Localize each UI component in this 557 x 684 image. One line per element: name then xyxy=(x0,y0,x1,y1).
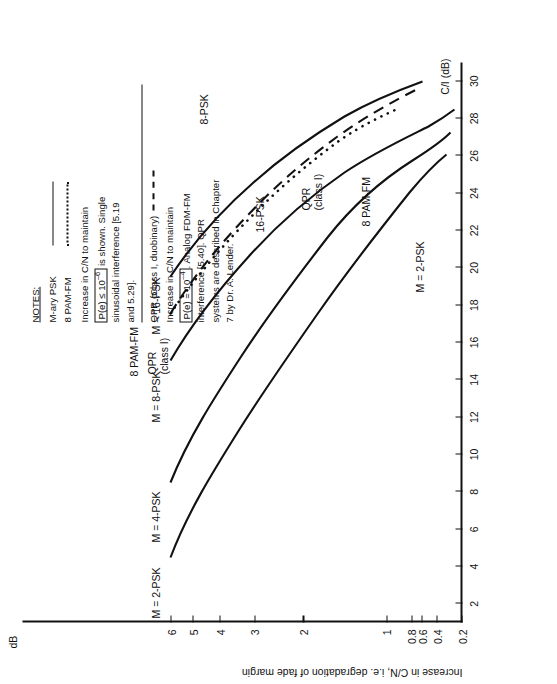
y-tick-label: 0.4 xyxy=(432,629,443,644)
y-tick-label: 6 xyxy=(166,629,177,635)
x-tick-label: 28 xyxy=(468,112,479,124)
note-2-line-2: P(e) = 10–4. Analog FDM-FM xyxy=(177,72,194,322)
note-2-boxed-text: P(e) = 10 xyxy=(180,279,191,319)
note-2-line-1: Increase in C/N to maintain xyxy=(162,72,176,322)
x-tick-label: 22 xyxy=(468,224,479,236)
y-tick-label: 0.8 xyxy=(407,629,418,644)
x-tick-label: 24 xyxy=(468,187,479,199)
x-tick-label: 16 xyxy=(468,336,479,348)
x-tick-label: 10 xyxy=(468,448,479,460)
note-2-line-2-tail: . Analog FDM-FM xyxy=(180,193,191,268)
y-tick-label: 2 xyxy=(298,629,309,635)
y-tick-label: 5 xyxy=(188,629,199,635)
figure-stage: 2 4 6 8 10 12 14 16 18 20 22 24 26 28 30… xyxy=(0,0,557,684)
x-tick-label: 4 xyxy=(468,563,479,569)
y-axis-title: Increase in C/N, i.e. degradation of fad… xyxy=(241,666,462,678)
x-tick-label: 14 xyxy=(468,373,479,385)
legend-label-mary-psk: M-ary PSK xyxy=(45,250,59,322)
note-1: Increase in C/N to maintain P(e) ≤ 10–6 … xyxy=(77,72,137,322)
x-tick-label: 18 xyxy=(468,299,479,311)
x-tick-label: 12 xyxy=(468,411,479,423)
figure-caption: Fig. 5.8. Increase in C/N to maintain a … xyxy=(524,674,553,684)
y-axis-unit-label: dB xyxy=(6,635,18,648)
x-tick-label: 2 xyxy=(468,600,479,606)
legend-row-qpr: QPR (Class I, duobinary) xyxy=(146,72,160,322)
legend-label-qpr: QPR (Class I, duobinary) xyxy=(146,215,160,322)
curve-label-m16psk-right: 16-PSK xyxy=(254,196,266,232)
legend-swatch-dotted-line xyxy=(66,181,68,245)
note-1-line-1: Increase in C/N to maintain xyxy=(77,72,91,322)
legend-swatch-dashed-line xyxy=(152,170,154,210)
note-2-line-4: systems are described in Chapter xyxy=(208,72,222,322)
curve-label-m8psk-left: M = 8-PSK xyxy=(150,371,162,422)
notes-divider xyxy=(141,84,142,322)
note-1-boxed-exponent: –6 xyxy=(93,271,102,279)
note-1-line-2: P(e) ≤ 10–6 is shown. Single xyxy=(92,72,109,322)
legend-row-8pamfm: 8 PAM-FM xyxy=(60,72,74,322)
notes-block: NOTES: M-ary PSK 8 PAM-FM Increase in C/… xyxy=(28,72,236,322)
x-tick-label: 8 xyxy=(468,488,479,494)
legend-label-8pamfm: 8 PAM-FM xyxy=(60,250,74,322)
curve-label-m4psk-left: M = 4-PSK xyxy=(150,491,162,542)
y-tick-label: 0.6 xyxy=(417,629,428,644)
curve-label-m2psk-right: M = 2-PSK xyxy=(414,241,426,292)
plot-area: 2 4 6 8 10 12 14 16 18 20 22 24 26 28 30… xyxy=(22,62,462,622)
x-tick-label: 26 xyxy=(468,149,479,161)
curve-label-m2psk-left: M = 2-PSK xyxy=(150,567,162,618)
curve-label-qpr-left: QPR (class I) xyxy=(146,337,170,374)
curve-label-qpr-right-line1: QPR xyxy=(299,187,311,210)
y-tick-label: 4 xyxy=(215,629,226,635)
note-2: Increase in C/N to maintain P(e) = 10–4.… xyxy=(162,72,236,322)
y-tick-label: 3 xyxy=(249,629,260,635)
curve-label-8pamfm-right: 8 PAM-FM xyxy=(360,177,372,226)
curve-label-qpr-left-line1: QPR xyxy=(145,351,157,374)
note-2-line-3: interference [5.40]. QPR xyxy=(193,72,207,322)
curve-label-qpr-right: QPR (class I) xyxy=(300,173,324,210)
y-tick-label: 1 xyxy=(382,629,393,635)
notes-header: NOTES: xyxy=(28,72,42,322)
legend-row-mary-psk: M-ary PSK xyxy=(45,72,59,322)
x-tick-label: 30 xyxy=(468,75,479,87)
x-tick-label: 20 xyxy=(468,261,479,273)
note-1-boxed-expression: P(e) ≤ 10–6 xyxy=(94,268,107,322)
curve-label-qpr-left-line2: (class I) xyxy=(157,337,169,374)
y-tick-label: 0.2 xyxy=(457,629,468,644)
curve-label-8pamfm-left: 8 PAM-FM xyxy=(128,327,140,376)
x-tick-label: 6 xyxy=(468,526,479,532)
note-2-line-5: 7 by Dr. A. Lender. xyxy=(222,72,236,322)
note-1-boxed-text: P(e) ≤ 10 xyxy=(95,280,106,319)
note-1-line-4: and 5.29]. xyxy=(123,72,137,322)
note-1-line-3: sinusoidal interference [5.19 xyxy=(108,72,122,322)
note-2-boxed-expression: P(e) = 10–4 xyxy=(179,268,192,322)
note-2-boxed-exponent: –4 xyxy=(178,271,187,279)
curve-label-qpr-right-line2: (class I) xyxy=(311,173,323,210)
legend-swatch-solid-line xyxy=(52,181,53,245)
note-1-line-2-tail: is shown. Single xyxy=(95,196,106,268)
